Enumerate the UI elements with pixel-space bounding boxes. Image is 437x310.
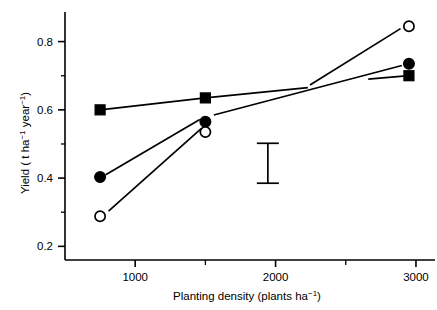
y-tick-label: 0.4 xyxy=(37,172,54,184)
y-tick-label: 0.6 xyxy=(37,104,53,116)
series-line-filled-square xyxy=(368,76,409,79)
axes-spines xyxy=(65,12,435,260)
x-axis-ticks xyxy=(135,260,416,267)
data-point-filled-square xyxy=(200,93,210,103)
yield-vs-planting-density-chart: 0.20.40.60.8 100020003000 Planting densi… xyxy=(0,0,437,310)
y-tick-label: 0.8 xyxy=(37,36,53,48)
y-axis-title: Yield ( t ha−1 year−1) xyxy=(18,92,31,194)
series-lines xyxy=(100,29,409,212)
data-point-filled-square xyxy=(404,71,414,81)
error-bar xyxy=(257,143,279,183)
y-axis-ticks xyxy=(58,42,65,247)
y-tick-label: 0.2 xyxy=(37,240,53,252)
series-line-filled-circle xyxy=(214,65,402,114)
x-axis-tick-labels: 100020003000 xyxy=(122,271,428,283)
series-line-open-circle xyxy=(109,129,202,212)
data-point-filled-circle xyxy=(404,58,415,69)
x-tick-label: 1000 xyxy=(122,271,148,283)
data-point-open-circle xyxy=(200,127,210,137)
data-point-open-circle xyxy=(95,211,105,221)
data-point-filled-square xyxy=(95,105,105,115)
data-point-open-circle xyxy=(404,21,414,31)
series-line-open-circle xyxy=(310,29,401,85)
chart-figure: 0.20.40.60.8 100020003000 Planting densi… xyxy=(0,0,437,310)
data-point-filled-circle xyxy=(95,172,106,183)
y-axis-tick-labels: 0.20.40.60.8 xyxy=(37,36,54,253)
series-markers xyxy=(95,21,415,221)
x-axis-title: Planting density (plants ha−1) xyxy=(173,289,321,302)
x-tick-label: 3000 xyxy=(403,271,429,283)
series-line-filled-circle xyxy=(106,119,200,174)
x-tick-label: 2000 xyxy=(263,271,289,283)
data-point-filled-circle xyxy=(200,116,211,127)
